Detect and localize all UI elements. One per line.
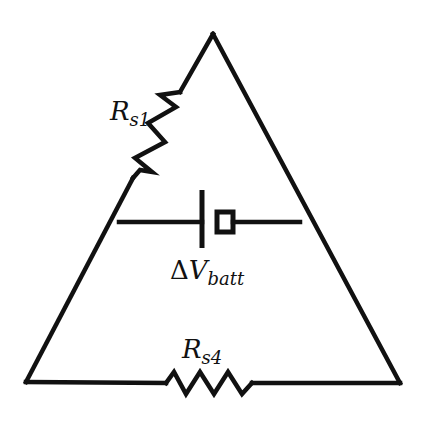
- battery-short-plate: [217, 212, 233, 232]
- label-rs1: Rs1: [110, 98, 150, 129]
- label-battery-delta: Δ: [170, 255, 189, 285]
- wire-left-upper: [180, 34, 213, 92]
- label-rs1-sub: s1: [130, 109, 151, 130]
- label-battery-main: V: [189, 255, 208, 285]
- wire-left-lower: [26, 178, 133, 382]
- label-rs1-main: R: [110, 96, 130, 126]
- label-rs4-sub: s4: [202, 347, 223, 368]
- label-battery: ΔVbatt: [170, 257, 244, 288]
- wire-right-edge: [213, 34, 400, 383]
- label-rs4: Rs4: [182, 336, 222, 367]
- label-battery-sub: batt: [208, 268, 245, 289]
- wire-bottom-left: [26, 382, 166, 383]
- resistor-rs4: [166, 372, 252, 394]
- label-rs4-main: R: [182, 334, 202, 364]
